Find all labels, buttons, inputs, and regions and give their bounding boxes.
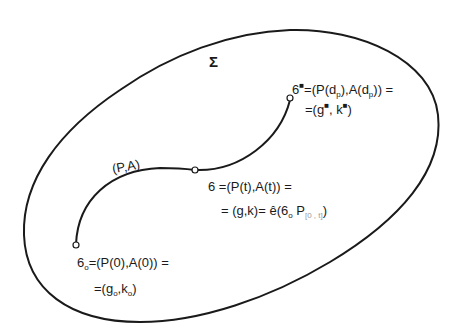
text: )) = <box>373 82 393 97</box>
text: (6 <box>277 203 289 218</box>
text: =(P(d <box>304 82 336 97</box>
text: ) <box>323 203 327 218</box>
middle-point-line1: 6 =(P(t),A(t)) = <box>208 180 292 193</box>
interval-sub: [0 , t] <box>305 211 323 220</box>
text: = (g,k)= <box>221 203 269 218</box>
diagram-canvas <box>0 0 461 326</box>
text: ) <box>132 281 136 296</box>
text: , k <box>329 102 343 117</box>
start-point-line1: 6o=(P(0),A(0)) = <box>77 256 169 272</box>
end-point-line2: =(g■, k■) <box>305 102 352 116</box>
text: ,k <box>118 281 128 296</box>
text: ),A(d <box>341 82 369 97</box>
path-curve-pa <box>76 100 290 244</box>
text: =(g <box>94 281 113 296</box>
point-start-marker <box>73 242 79 248</box>
text: =(g <box>305 102 324 117</box>
end-point-line1: 6■=(P(dp),A(dp)) = <box>292 82 393 99</box>
region-sigma-label: Σ <box>209 54 218 69</box>
e-hat-symbol: ê <box>269 203 276 218</box>
start-point-line2: =(go,ko) <box>94 282 137 298</box>
region-sigma-outline <box>24 30 439 322</box>
middle-point-line2: = (g,k)= ê(6o P[0 , t]) <box>221 204 327 220</box>
text: =(P(0),A(0)) = <box>89 255 169 270</box>
point-middle-marker <box>192 167 198 173</box>
text: ) <box>348 102 352 117</box>
text: P <box>293 203 305 218</box>
